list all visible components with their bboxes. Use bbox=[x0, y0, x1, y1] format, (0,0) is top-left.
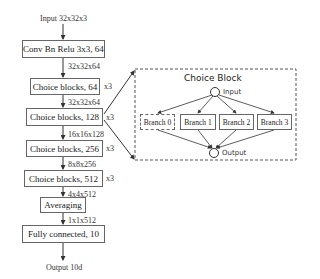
repeat-label: x3 bbox=[106, 113, 114, 122]
choice-output-label: Output bbox=[222, 149, 246, 157]
repeat-label: x3 bbox=[104, 82, 112, 91]
network-input-label: Input 32x32x3 bbox=[40, 14, 87, 23]
network-output-label: Output 10d bbox=[46, 263, 82, 272]
branch-1: Branch 1 bbox=[180, 114, 216, 130]
shape-label: 1x1x512 bbox=[68, 216, 96, 225]
shape-label: 16x16x128 bbox=[68, 130, 104, 139]
shape-label: 32x32x64 bbox=[68, 62, 100, 71]
shape-label: 8x8x256 bbox=[68, 160, 96, 169]
choice-block-title: Choice Block bbox=[184, 73, 242, 83]
shape-label: 32x32x64 bbox=[68, 98, 100, 107]
branch-0: Branch 0 bbox=[140, 114, 175, 130]
choice-input-label: Input bbox=[223, 88, 241, 96]
branch-3: Branch 3 bbox=[257, 114, 292, 130]
choice-blocks-256: Choice blocks, 256 bbox=[26, 140, 103, 157]
fully-connected-layer: Fully connected, 10 bbox=[22, 225, 105, 243]
repeat-label: x3 bbox=[106, 174, 114, 183]
branch-2: Branch 2 bbox=[219, 114, 254, 130]
branch-in-arrows bbox=[158, 95, 274, 113]
choice-blocks-64: Choice blocks, 64 bbox=[30, 78, 100, 95]
averaging-layer: Averaging bbox=[40, 197, 86, 213]
branch-out-arrows bbox=[158, 130, 274, 148]
conv-bn-relu-layer: Conv Bn Relu 3x3, 64 bbox=[22, 40, 105, 58]
choice-blocks-512: Choice blocks, 512 bbox=[24, 170, 103, 187]
choice-blocks-128: Choice blocks, 128 bbox=[26, 108, 103, 126]
repeat-label: x3 bbox=[106, 144, 114, 153]
choice-output-node bbox=[210, 149, 219, 158]
